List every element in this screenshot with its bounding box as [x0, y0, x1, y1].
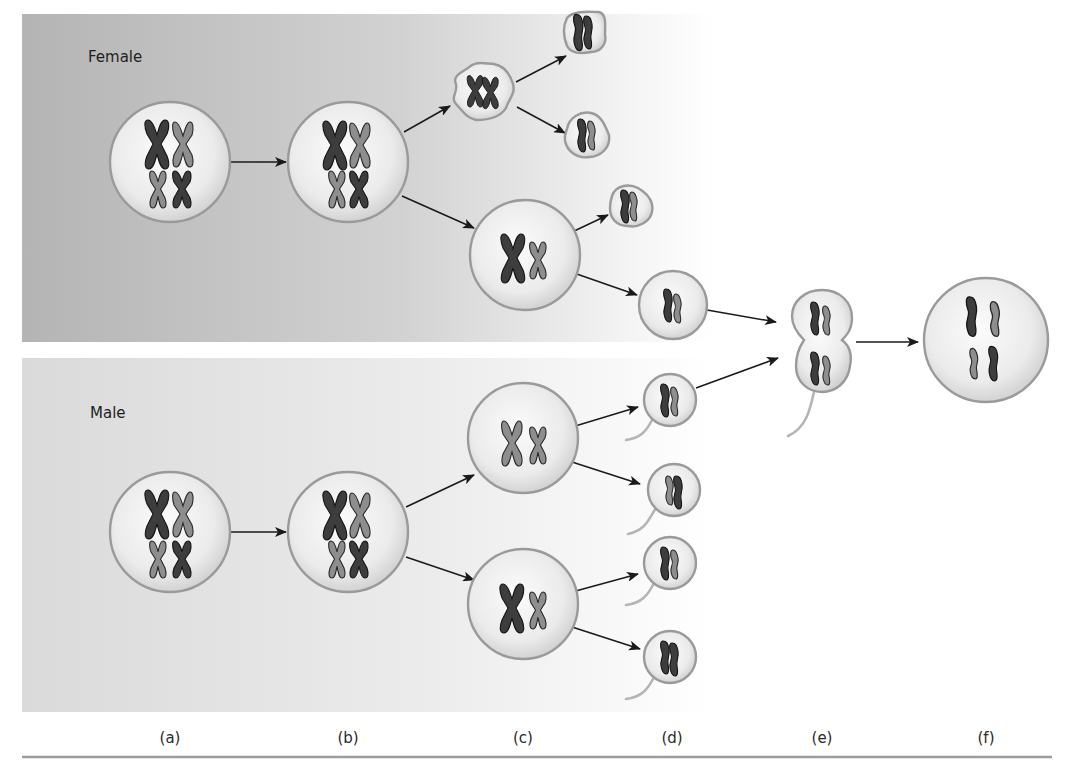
female-cell-d-ovum — [639, 271, 707, 339]
male-label: Male — [90, 404, 126, 422]
female-cell-b-primary-oocyte — [288, 102, 408, 222]
female-first-polar-body — [454, 63, 514, 120]
stage-label-e: (e) — [812, 729, 833, 747]
stage-label-b: (b) — [337, 729, 358, 747]
female-polar-body-1 — [564, 12, 605, 53]
female-cell-a-oogonium — [110, 102, 230, 222]
stage-label-c: (c) — [513, 729, 533, 747]
male-cell-b-primary-spermatocyte — [288, 472, 408, 592]
male-cell-c-secondary-spermatocyte-1 — [468, 383, 578, 493]
male-cell-c-secondary-spermatocyte-2 — [468, 549, 578, 659]
gametogenesis-diagram: Female Male — [0, 0, 1072, 765]
stage-label-d: (d) — [661, 729, 682, 747]
male-cell-a-spermatogonium — [110, 472, 230, 592]
female-cell-c-secondary-oocyte — [470, 200, 580, 310]
stage-label-f: (f) — [978, 729, 995, 747]
fertilization-cell-e — [788, 290, 852, 436]
zygote-cell-f — [924, 278, 1048, 402]
stage-label-a: (a) — [160, 729, 181, 747]
stage-labels: (a) (b) (c) (d) (e) (f) — [160, 729, 995, 747]
female-label: Female — [88, 48, 142, 66]
